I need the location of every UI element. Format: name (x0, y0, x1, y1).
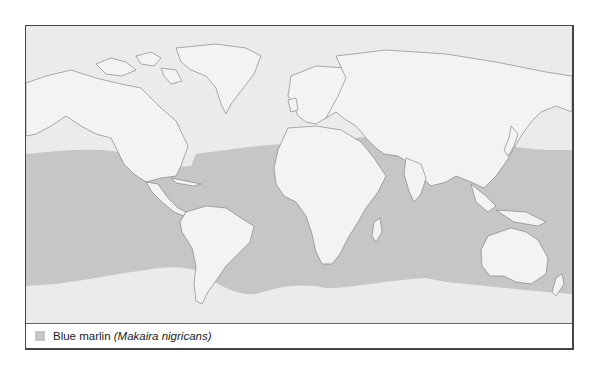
legend-scientific-name: (Makaira nigricans) (114, 330, 212, 342)
world-map-svg (26, 26, 572, 323)
map-figure: Blue marlin (Makaira nigricans) (25, 25, 574, 350)
legend-swatch-blue-marlin (35, 331, 45, 341)
world-map (26, 26, 572, 324)
legend-label: Blue marlin (Makaira nigricans) (53, 330, 212, 342)
map-legend: Blue marlin (Makaira nigricans) (26, 324, 572, 348)
greenland (176, 44, 261, 114)
legend-common-name: Blue marlin (53, 330, 111, 342)
